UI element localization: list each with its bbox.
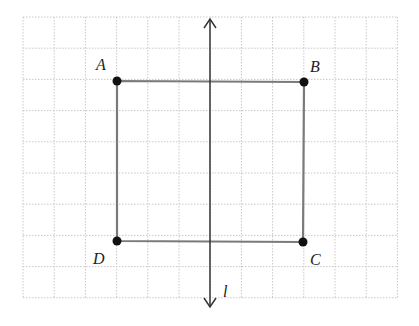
vertex-c [299, 238, 308, 247]
vertex-d [113, 237, 122, 246]
label-l: l [223, 283, 228, 300]
label-b: B [310, 58, 320, 75]
label-c: C [310, 251, 321, 268]
label-a: A [95, 56, 106, 73]
vertex-labels: A B C D l [92, 56, 321, 300]
diagram-canvas: A B C D l [0, 0, 419, 326]
label-d: D [92, 250, 105, 267]
vertex-b [300, 78, 309, 87]
symmetry-line-l [204, 19, 216, 307]
vertex-a [113, 77, 122, 86]
